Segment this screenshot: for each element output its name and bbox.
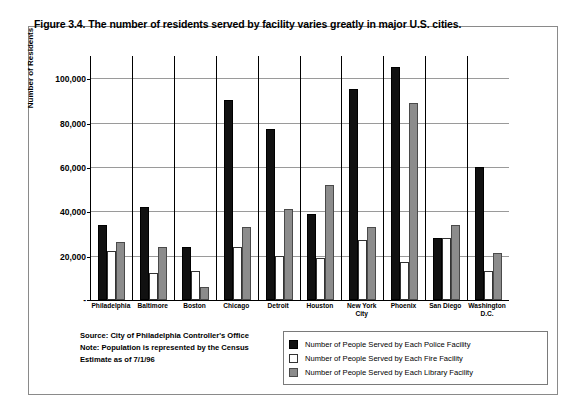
legend-item: Number of People Served by Each Police F…: [289, 337, 541, 351]
x-axis-category-label: Washington D.C.: [466, 302, 508, 317]
bar-group: [384, 56, 426, 300]
x-axis-category-label: Detroit: [257, 302, 299, 317]
y-axis-title: Number of Residents: [26, 8, 35, 128]
legend-swatch-police: [289, 340, 298, 349]
y-axis-tick-label: 20,000: [60, 252, 86, 262]
x-axis-category-label: Philadelphia: [90, 302, 132, 317]
y-axis-tick-label: 80,000: [60, 119, 86, 129]
bar-police: [98, 225, 107, 300]
x-axis-category-label: Baltimore: [132, 302, 174, 317]
bar-fire: [484, 271, 493, 300]
y-axis-tick-label: 40,000: [60, 207, 86, 217]
bar-group: [91, 56, 133, 300]
bar-police: [140, 207, 149, 300]
bar-fire: [233, 247, 242, 300]
bar-groups: [91, 56, 509, 300]
source-notes: Source: City of Philadelphia Controller'…: [80, 330, 249, 365]
bar-fire: [275, 256, 284, 300]
bar-police: [224, 100, 233, 300]
legend-swatch-library: [289, 368, 298, 377]
bar-fire: [400, 262, 409, 300]
legend-label: Number of People Served by Each Library …: [305, 368, 473, 377]
bar-police: [349, 89, 358, 300]
bar-police: [307, 214, 316, 301]
bar-group: [217, 56, 259, 300]
y-axis-tick-label: 100,000: [55, 74, 86, 84]
bar-library: [158, 247, 167, 300]
bar-group: [175, 56, 217, 300]
bar-library: [284, 209, 293, 300]
bar-fire: [149, 273, 158, 300]
bar-chart: Number of Residents -20,00040,00060,0008…: [28, 40, 518, 330]
bar-library: [200, 287, 209, 300]
bar-library: [493, 253, 502, 300]
bar-library: [409, 103, 418, 300]
y-axis-tick-mark: [87, 300, 91, 301]
bar-library: [116, 242, 125, 300]
bar-group: [468, 56, 509, 300]
legend-item: Number of People Served by Each Library …: [289, 365, 541, 379]
bar-group: [426, 56, 468, 300]
bar-group: [133, 56, 175, 300]
bar-library: [451, 225, 460, 300]
bar-group: [259, 56, 301, 300]
bar-police: [475, 167, 484, 300]
bar-police: [433, 238, 442, 300]
bar-library: [242, 227, 251, 300]
bar-library: [367, 227, 376, 300]
bar-group: [301, 56, 343, 300]
x-axis-category-label: New York City: [341, 302, 383, 317]
bar-police: [266, 129, 275, 300]
estimate-line: Estimate as of 7/1/96: [80, 354, 249, 366]
bar-police: [182, 247, 191, 300]
bar-library: [325, 185, 334, 300]
y-axis-tick-label: -: [83, 295, 86, 305]
bar-fire: [107, 251, 116, 300]
y-axis-tick-label: 60,000: [60, 163, 86, 173]
bar-police: [391, 67, 400, 300]
bar-fire: [358, 240, 367, 300]
x-axis-category-label: San Diego: [424, 302, 466, 317]
x-axis-category-label: Boston: [174, 302, 216, 317]
legend-item: Number of People Served by Each Fire Fac…: [289, 351, 541, 365]
note-line: Note: Population is represented by the C…: [80, 342, 249, 354]
chart-legend: Number of People Served by Each Police F…: [283, 331, 548, 385]
bar-fire: [316, 258, 325, 300]
x-axis-category-labels: PhiladelphiaBaltimoreBostonChicagoDetroi…: [90, 302, 508, 317]
plot-area: -20,00040,00060,00080,000100,000: [90, 56, 509, 301]
legend-swatch-fire: [289, 354, 298, 363]
figure-title: Figure 3.4. The number of residents serv…: [34, 18, 504, 30]
source-line: Source: City of Philadelphia Controller'…: [80, 330, 249, 342]
bar-fire: [442, 238, 451, 300]
legend-label: Number of People Served by Each Fire Fac…: [305, 354, 463, 363]
bar-fire: [191, 271, 200, 300]
x-axis-category-label: Chicago: [215, 302, 257, 317]
bar-group: [342, 56, 384, 300]
legend-label: Number of People Served by Each Police F…: [305, 340, 470, 349]
x-axis-category-label: Phoenix: [383, 302, 425, 317]
x-axis-category-label: Houston: [299, 302, 341, 317]
